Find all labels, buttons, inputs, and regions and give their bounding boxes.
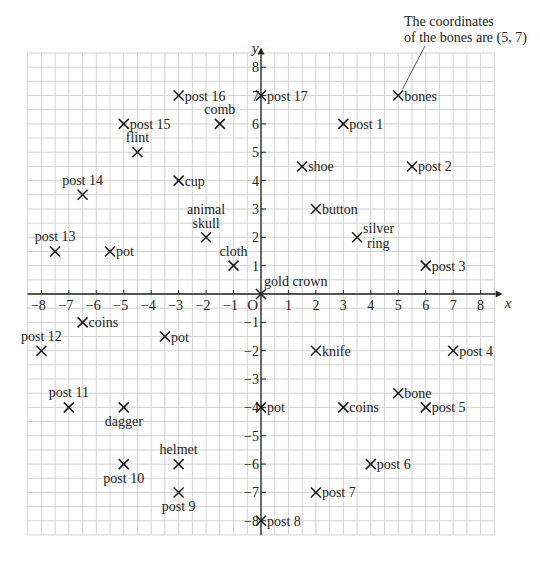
y-tick-label: 1: [252, 259, 259, 274]
x-tick-label: 5: [395, 298, 402, 313]
point-marker-bones: bones: [393, 89, 437, 104]
point-label: shoe: [308, 159, 334, 174]
point-label: cloth: [220, 244, 248, 259]
x-tick-label: −3: [168, 298, 183, 313]
point-label: post 9: [162, 499, 196, 514]
point-label: skull: [192, 216, 219, 231]
point-label: cup: [185, 174, 205, 189]
point-label: pot: [171, 330, 189, 345]
point-label: helmet: [160, 442, 198, 457]
y-tick-label: 4: [252, 174, 259, 189]
y-tick-label: 8: [252, 60, 259, 75]
point-label: post 13: [35, 229, 76, 244]
point-marker-bone: bone: [393, 386, 431, 401]
point-marker-silver-ring: silverring: [352, 221, 394, 251]
point-label: flint: [126, 130, 149, 145]
point-label: post 10: [103, 471, 144, 486]
point-label: post 1: [349, 117, 383, 132]
point-label: post 11: [49, 385, 89, 400]
x-tick-label: −2: [196, 298, 211, 313]
x-tick-label: −4: [141, 298, 156, 313]
y-tick-label: 3: [252, 202, 259, 217]
x-tick-label: 2: [312, 298, 319, 313]
x-tick-label: 6: [422, 298, 429, 313]
point-label: animal: [187, 202, 225, 217]
point-marker-button: button: [311, 202, 358, 217]
x-tick-label: 1: [285, 298, 292, 313]
x-tick-label: −7: [58, 298, 73, 313]
point-marker-comb: comb: [204, 102, 235, 129]
point-marker-pot: pot: [160, 330, 189, 345]
point-marker-pot: pot: [105, 244, 134, 259]
x-tick-label: 4: [367, 298, 374, 313]
point-label: post 2: [418, 159, 452, 174]
point-label: post 14: [62, 173, 103, 188]
point-label: bone: [404, 386, 431, 401]
x-axis-label: x: [504, 295, 512, 311]
point-label: gold crown: [264, 274, 327, 289]
point-label: button: [322, 202, 358, 217]
point-marker-post-14: post 14: [62, 173, 103, 200]
point-marker-post-2: post 2: [407, 159, 452, 174]
point-marker-coins: coins: [78, 315, 119, 330]
point-label: knife: [322, 344, 351, 359]
point-label: post 5: [432, 400, 466, 415]
y-tick-label: −2: [244, 344, 259, 359]
y-tick-label: −7: [244, 485, 259, 500]
point-marker-post-4: post 4: [448, 344, 493, 359]
x-tick-label: −5: [113, 298, 128, 313]
point-label: coins: [89, 315, 119, 330]
y-tick-label: 5: [252, 145, 259, 160]
coordinate-grid-plot: xyO−8−7−6−5−4−3−2−112345678−8−7−6−5−4−3−…: [0, 0, 540, 564]
x-axis-arrow-icon: [496, 291, 503, 298]
point-label: silver: [363, 221, 394, 236]
x-tick-label: −6: [86, 298, 101, 313]
point-label: post 4: [459, 344, 493, 359]
axes: [28, 47, 503, 535]
y-axis-label: y: [250, 40, 259, 56]
point-label: post 17: [267, 89, 308, 104]
x-tick-label: −8: [31, 298, 46, 313]
y-tick-label: −1: [244, 315, 259, 330]
x-tick-label: 7: [450, 298, 457, 313]
point-marker-gold-crown: gold crown: [256, 274, 327, 299]
y-tick-label: 2: [252, 230, 259, 245]
x-tick-label: 3: [340, 298, 347, 313]
point-marker-post-13: post 13: [35, 229, 76, 256]
point-label: post 12: [21, 329, 62, 344]
point-marker-coins: coins: [338, 400, 379, 415]
point-marker-post-9: post 9: [162, 487, 196, 514]
point-marker-flint: flint: [126, 130, 149, 157]
point-label: dagger: [105, 414, 143, 429]
annotation-line-1: The coordinates: [404, 14, 527, 30]
point-marker-post-10: post 10: [103, 459, 144, 486]
point-marker-post-6: post 6: [366, 457, 411, 472]
y-tick-label: −5: [244, 429, 259, 444]
point-marker-post-1: post 1: [338, 117, 383, 132]
y-tick-label: 6: [252, 117, 259, 132]
point-label: comb: [204, 102, 235, 117]
point-marker-post-5: post 5: [421, 400, 466, 415]
x-tick-label: −1: [223, 298, 238, 313]
point-label: post 6: [377, 457, 411, 472]
point-label: coins: [349, 400, 379, 415]
point-marker-post-7: post 7: [311, 485, 356, 500]
y-tick-label: 7: [252, 89, 259, 104]
point-marker-shoe: shoe: [297, 159, 334, 174]
bones-coordinates-annotation: The coordinates of the bones are (5, 7): [404, 14, 527, 46]
point-label: bones: [404, 89, 437, 104]
point-label: pot: [267, 400, 285, 415]
point-label: post 3: [432, 259, 466, 274]
point-label: pot: [116, 244, 134, 259]
point-label: post 7: [322, 485, 356, 500]
point-marker-cloth: cloth: [220, 244, 248, 271]
y-tick-label: −3: [244, 372, 259, 387]
point-marker-post-12: post 12: [21, 329, 62, 356]
x-tick-label: 8: [477, 298, 484, 313]
point-marker-knife: knife: [311, 344, 351, 359]
annotation-line-2: of the bones are (5, 7): [404, 30, 527, 46]
annotation-leader-line: [402, 46, 425, 90]
y-tick-label: −6: [244, 457, 259, 472]
point-marker-post-3: post 3: [421, 259, 466, 274]
point-label: post 8: [267, 514, 301, 529]
